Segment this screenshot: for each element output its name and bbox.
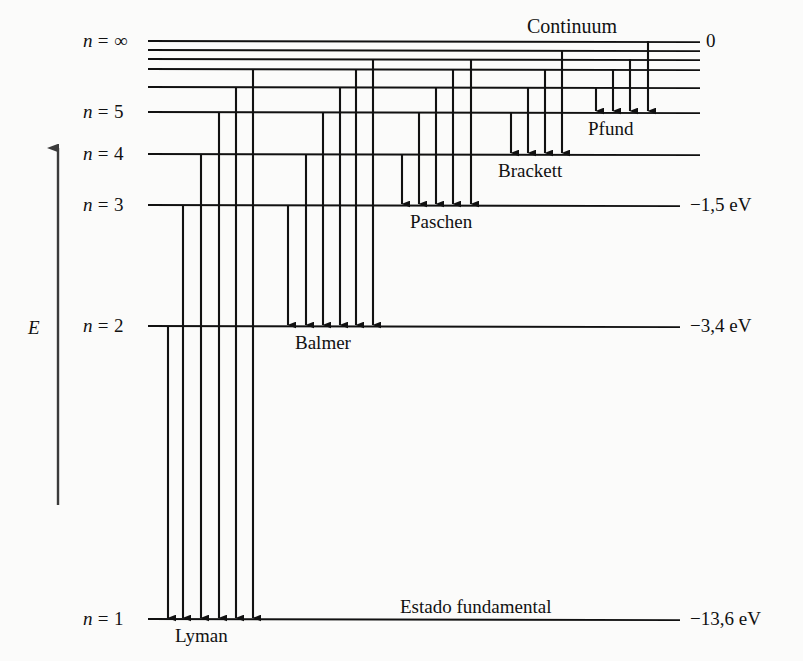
energy-level-line-n5 — [148, 112, 700, 113]
series-label-brackett: Brackett — [498, 161, 562, 180]
energy-level-line-n8 — [148, 59, 700, 60]
energy-level-line-n3 — [148, 205, 680, 206]
energy-level-line-n4 — [148, 154, 700, 155]
energy-value-n3: −1,5 eV — [690, 195, 751, 214]
energy-level-line-n1 — [148, 619, 680, 620]
energy-value-n2: −3,4 eV — [690, 316, 751, 335]
energy-level-line-n7 — [148, 69, 700, 70]
level-label-n2: n = 2 — [83, 316, 124, 335]
energy-value-n1: −13,6 eV — [690, 609, 761, 628]
level-label-n-infinity: n = ∞ — [83, 31, 128, 50]
series-label-paschen: Paschen — [410, 212, 472, 231]
energy-value-zero: 0 — [706, 31, 716, 50]
level-label-n1: n = 1 — [83, 609, 124, 628]
level-label-n3: n = 3 — [83, 195, 124, 214]
energy-level-line-n9 — [148, 50, 700, 51]
continuum-title: Continuum — [527, 16, 617, 36]
ground-state-label: Estado fundamental — [400, 597, 551, 616]
level-label-n5: n = 5 — [83, 102, 124, 121]
series-label-balmer: Balmer — [295, 333, 351, 352]
energy-level-line-n2 — [148, 326, 680, 327]
energy-axis-label: E — [28, 318, 40, 337]
energy-level-diagram: Continuum n = ∞ n = 5 n = 4 n = 3 n = 2 … — [0, 0, 803, 661]
series-label-pfund: Pfund — [588, 119, 633, 138]
series-label-lyman: Lyman — [175, 626, 228, 645]
energy-level-line-n6 — [148, 87, 700, 88]
level-label-n4: n = 4 — [83, 144, 124, 163]
transition-arrows-group — [168, 41, 648, 618]
energy-level-line-n∞ — [148, 41, 700, 42]
